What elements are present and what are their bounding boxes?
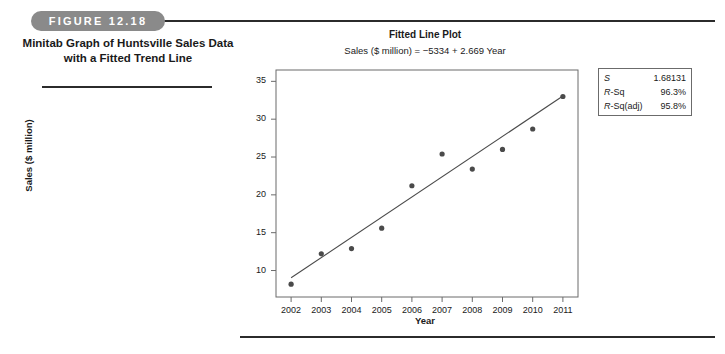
stats-row: S1.68131: [599, 71, 691, 85]
stats-key: R-Sq(adj): [604, 99, 643, 113]
regression-statistics-box: S1.68131R-Sq96.3%R-Sq(adj)95.8%: [598, 68, 692, 116]
data-point: [409, 183, 414, 188]
data-point: [289, 282, 294, 287]
data-point: [349, 246, 354, 251]
data-points: [289, 94, 566, 287]
stats-row: R-Sq(adj)95.8%: [599, 99, 691, 113]
stats-key: S: [604, 71, 610, 85]
data-point: [470, 167, 475, 172]
plot-canvas: [0, 0, 725, 354]
data-point: [530, 126, 535, 131]
fitted-trend-line: [291, 96, 563, 278]
data-point: [500, 147, 505, 152]
stats-row: R-Sq96.3%: [599, 85, 691, 99]
fitted-line-plot: Fitted Line Plot Sales ($ million) = −53…: [0, 0, 725, 354]
stats-value: 95.8%: [660, 99, 686, 113]
data-point: [319, 251, 324, 256]
plot-frame: [276, 70, 578, 297]
data-point: [560, 94, 565, 99]
stats-key: R-Sq: [604, 85, 625, 99]
stats-value: 96.3%: [660, 85, 686, 99]
data-point: [440, 151, 445, 156]
data-point: [379, 226, 384, 231]
stats-value: 1.68131: [653, 71, 686, 85]
axis-tick-marks: [271, 81, 563, 302]
figure-page: FIGURE 12.18 Minitab Graph of Huntsville…: [0, 0, 725, 354]
